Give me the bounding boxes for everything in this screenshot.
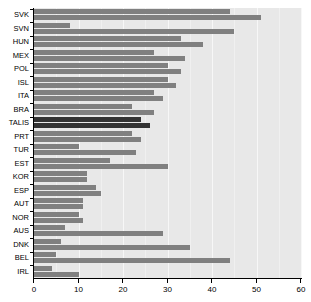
bar: [34, 171, 87, 176]
bar: [34, 96, 163, 101]
y-axis-tick: [30, 171, 34, 172]
bar: [34, 177, 87, 182]
bar: [34, 50, 154, 55]
y-axis-label-ita: ITA: [18, 91, 29, 100]
bar: [34, 198, 83, 203]
bar: [34, 218, 83, 223]
y-axis-tick: [30, 130, 34, 131]
bar: [34, 90, 154, 95]
bar: [34, 9, 230, 14]
plot-area: [34, 8, 301, 278]
bar: [34, 225, 65, 230]
horizontal-bar-chart: SVKSVNHUNMEXPOLISLITABRATALISPRTTURESTKO…: [0, 0, 311, 302]
y-axis-tick: [30, 265, 34, 266]
bar-group: [34, 211, 301, 225]
y-axis-tick: [30, 225, 34, 226]
y-axis-tick: [30, 36, 34, 37]
y-axis-label-svk: SVK: [14, 10, 29, 19]
y-axis-tick: [30, 252, 34, 253]
y-axis-label-mex: MEX: [13, 51, 29, 60]
y-axis-tick: [30, 238, 34, 239]
x-axis-label-10: 10: [67, 285, 91, 294]
bar: [34, 29, 234, 34]
x-axis-label-40: 40: [200, 285, 224, 294]
bar-group: [34, 130, 301, 144]
bar: [34, 272, 79, 277]
x-axis-label-60: 60: [289, 285, 311, 294]
y-axis-tick: [30, 103, 34, 104]
y-axis-tick: [30, 157, 34, 158]
bar-group: [34, 76, 301, 90]
bar: [34, 164, 168, 169]
bar: [34, 83, 176, 88]
bar-group: [34, 8, 301, 22]
bar: [34, 69, 181, 74]
bar: [34, 231, 163, 236]
bar-group: [34, 170, 301, 184]
bar-group: [34, 238, 301, 252]
bar: [34, 77, 168, 82]
y-axis-tick: [30, 76, 34, 77]
bar: [34, 15, 261, 20]
x-axis-tick: [211, 279, 212, 283]
bar: [34, 150, 136, 155]
bar-group: [34, 251, 301, 265]
bar: [34, 63, 168, 68]
bar-group: [34, 103, 301, 117]
y-axis-label-tur: TUR: [14, 145, 29, 154]
bar: [34, 123, 150, 128]
y-axis-tick: [30, 144, 34, 145]
bar: [34, 23, 70, 28]
x-axis-label-50: 50: [245, 285, 269, 294]
y-axis-label-bel: BEL: [15, 253, 29, 262]
bar: [34, 258, 230, 263]
y-axis-label-pol: POL: [14, 64, 29, 73]
x-axis-tick: [33, 279, 34, 283]
y-axis-label-aus: AUS: [14, 226, 29, 235]
bar: [34, 56, 185, 61]
y-axis-tick: [30, 63, 34, 64]
bar: [34, 266, 52, 271]
y-axis-tick: [30, 22, 34, 23]
bar-group: [34, 49, 301, 63]
x-axis-tick: [122, 279, 123, 283]
bar: [34, 131, 132, 136]
y-axis-label-kor: KOR: [13, 172, 29, 181]
x-axis-line: [33, 278, 302, 279]
y-axis-tick: [30, 49, 34, 50]
bars-layer: [34, 8, 301, 278]
y-axis-tick: [30, 198, 34, 199]
bar: [34, 42, 203, 47]
y-axis-tick: [30, 90, 34, 91]
y-axis-label-bra: BRA: [14, 105, 29, 114]
gridline-major: [301, 8, 302, 278]
bar: [34, 104, 132, 109]
y-axis-label-dnk: DNK: [13, 240, 29, 249]
y-axis-label-svn: SVN: [14, 24, 29, 33]
bar: [34, 137, 141, 142]
y-axis-tick: [30, 211, 34, 212]
y-axis-tick: [30, 9, 34, 10]
x-axis-label-30: 30: [156, 285, 180, 294]
bar: [34, 36, 181, 41]
bar-group: [34, 184, 301, 198]
bar: [34, 185, 96, 190]
bar: [34, 245, 190, 250]
y-axis-label-aut: AUT: [14, 199, 29, 208]
y-axis-label-isl: ISL: [18, 78, 29, 87]
y-axis-label-est: EST: [14, 159, 29, 168]
bar: [34, 191, 101, 196]
x-axis-label-0: 0: [22, 285, 46, 294]
bar: [34, 117, 141, 122]
bar: [34, 252, 56, 257]
y-axis-label-talis: TALIS: [9, 118, 29, 127]
y-axis-label-irl: IRL: [17, 267, 29, 276]
bar: [34, 239, 61, 244]
x-axis-tick: [256, 279, 257, 283]
x-axis-label-20: 20: [111, 285, 135, 294]
bar: [34, 212, 79, 217]
bar-group: [34, 157, 301, 171]
bar: [34, 204, 83, 209]
y-axis-label-nor: NOR: [12, 213, 29, 222]
y-axis-tick: [30, 117, 34, 118]
